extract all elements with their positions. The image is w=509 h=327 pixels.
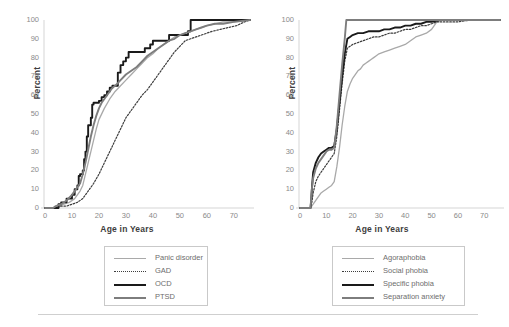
legend-line-swatch-icon [340, 279, 376, 289]
legend-line-swatch-icon [112, 253, 148, 263]
x-tick-label: 60 [195, 211, 219, 220]
legend-line-swatch-icon [340, 292, 376, 302]
legend-item[interactable]: Separation anxiety [333, 290, 464, 303]
x-tick-label: 20 [341, 211, 365, 220]
legend-line-swatch-icon [340, 253, 376, 263]
x-tick-label: 40 [393, 211, 417, 220]
legend-item[interactable]: GAD [105, 264, 207, 277]
chart-panel-right: Percent 0102030405060708090100 010203040… [255, 0, 509, 310]
legend-label: Social phobia [376, 266, 428, 275]
legend-left: Panic disorderGADOCDPTSD [104, 246, 208, 306]
x-tick-label: 70 [472, 211, 496, 220]
chart-svg [255, 0, 509, 214]
series-line [300, 20, 500, 208]
legend-label: Agoraphobia [376, 253, 426, 262]
series-line [300, 20, 500, 208]
legend-item[interactable]: Specific phobia [333, 277, 464, 290]
x-tick-label: 0 [288, 211, 312, 220]
legend-right: AgoraphobiaSocial phobiaSpecific phobiaS… [332, 246, 465, 306]
x-tick-label: 10 [314, 211, 338, 220]
plot-area-right [255, 0, 509, 214]
x-axis-label-right: Age in Years [255, 224, 509, 234]
legend-label: Panic disorder [148, 253, 203, 262]
x-tick-label: 30 [367, 211, 391, 220]
legend-item[interactable]: Social phobia [333, 264, 464, 277]
x-tick-label: 50 [420, 211, 444, 220]
legend-line-swatch-icon [340, 266, 376, 276]
footer-separator [38, 314, 478, 315]
legend-item[interactable]: Agoraphobia [333, 251, 464, 264]
legend-label: GAD [148, 266, 171, 275]
plot-area-left [0, 0, 254, 214]
x-tick-label: 0 [33, 211, 57, 220]
x-tick-label: 30 [114, 211, 138, 220]
chart-svg [0, 0, 254, 214]
chart-panel-left: Percent 0102030405060708090100 010203040… [0, 0, 254, 310]
series-line [300, 20, 500, 208]
legend-line-swatch-icon [112, 292, 148, 302]
legend-line-swatch-icon [112, 266, 148, 276]
legend-label: PTSD [148, 292, 175, 301]
legend-item[interactable]: OCD [105, 277, 207, 290]
figure-container: Percent 0102030405060708090100 010203040… [0, 0, 509, 327]
legend-item[interactable]: Panic disorder [105, 251, 207, 264]
legend-label: Specific phobia [376, 279, 434, 288]
x-tick-label: 70 [222, 211, 246, 220]
x-axis-label-left: Age in Years [0, 224, 254, 234]
x-tick-label: 10 [60, 211, 84, 220]
legend-label: Separation anxiety [376, 292, 445, 301]
x-tick-label: 40 [141, 211, 165, 220]
legend-item[interactable]: PTSD [105, 290, 207, 303]
x-tick-label: 60 [446, 211, 470, 220]
x-tick-label: 50 [168, 211, 192, 220]
x-tick-label: 20 [87, 211, 111, 220]
series-line [45, 20, 250, 208]
legend-line-swatch-icon [112, 279, 148, 289]
series-line [300, 20, 500, 208]
legend-label: OCD [148, 279, 172, 288]
